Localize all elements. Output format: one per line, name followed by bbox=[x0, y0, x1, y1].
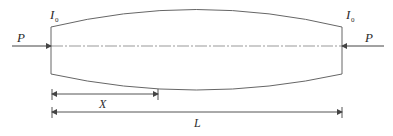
top-profile-curve bbox=[51, 10, 342, 28]
inertia-sub-left: 0 bbox=[55, 16, 59, 24]
column-outline bbox=[51, 10, 342, 91]
load-label-right: P bbox=[364, 30, 373, 45]
load-label-left: P bbox=[16, 30, 25, 45]
position-label: X bbox=[98, 97, 107, 111]
inertia-sub-right: 0 bbox=[351, 16, 355, 24]
column-diagram: P P I 0 I 0 X L bbox=[0, 0, 393, 136]
length-label: L bbox=[193, 116, 201, 130]
bottom-profile-curve bbox=[51, 74, 342, 90]
